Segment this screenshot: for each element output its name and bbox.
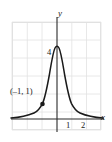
- y-axis-label: y: [58, 9, 62, 18]
- x-axis-label: x: [101, 113, 105, 122]
- graph-figure: y x 4 1 2 (–1, 1): [0, 0, 112, 142]
- x-tick-label-2: 2: [81, 121, 85, 130]
- y-tick-label-4: 4: [47, 48, 51, 57]
- marked-point: [40, 102, 45, 107]
- point-annotation-label: (–1, 1): [10, 87, 33, 96]
- x-tick-label-1: 1: [66, 121, 70, 130]
- curve-and-axes: [0, 0, 112, 142]
